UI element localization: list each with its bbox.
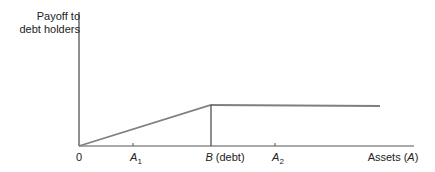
y-axis-label-line1: Payoff to (0, 10, 80, 23)
a2-label: A2 (272, 151, 284, 168)
origin-text: 0 (76, 151, 82, 163)
y-axis-label: Payoff to debt holders (0, 10, 80, 36)
a1-sub: 1 (137, 157, 141, 166)
b-suffix: (debt) (213, 151, 245, 163)
x-axis-var: A (407, 151, 414, 163)
b-debt-label: B (debt) (205, 151, 244, 164)
x-axis-label: Assets (A) (368, 151, 419, 164)
origin-label: 0 (76, 151, 82, 164)
x-axis-close: ) (415, 151, 419, 163)
payoff-line (79, 105, 380, 146)
a1-label: A1 (130, 151, 142, 168)
a2-sub: 2 (279, 157, 283, 166)
y-axis-label-line2: debt holders (0, 23, 80, 36)
x-axis-text: Assets ( (368, 151, 408, 163)
